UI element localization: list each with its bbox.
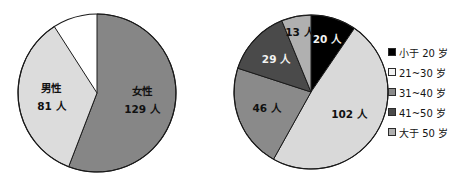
slice-label-value: 102 人 [331, 108, 368, 120]
gender-pie-panel: 女性129 人男性81 人 [0, 0, 200, 185]
slice-label-value: 46 人 [252, 102, 281, 114]
legend-item[interactable]: 大于 50 岁 [388, 122, 467, 142]
slice-label-value: 81 人 [37, 100, 66, 112]
age-legend: 小于 20 岁21~30 岁31~40 岁41~50 岁大于 50 岁 [388, 42, 467, 142]
slice-label-name: 女性 [132, 85, 153, 97]
legend-item-label: 小于 20 岁 [399, 45, 448, 60]
gender-pie-chart: 女性129 人男性81 人 [0, 0, 200, 185]
legend-item-label: 大于 50 岁 [399, 125, 448, 140]
legend-swatch-icon [388, 128, 396, 136]
age-pie-chart: 20 人102 人46 人29 人13 人 [233, 0, 393, 185]
legend-swatch-icon [388, 68, 396, 76]
legend-item-label: 31~40 岁 [399, 85, 446, 100]
legend-swatch-icon [388, 108, 396, 116]
slice-label-value: 20 人 [313, 33, 342, 45]
legend-swatch-icon [388, 88, 396, 96]
legend-item-label: 21~30 岁 [399, 65, 446, 80]
legend-swatch-icon [388, 48, 396, 56]
legend-item[interactable]: 21~30 岁 [388, 62, 467, 82]
pie-slices [234, 15, 388, 169]
legend-item[interactable]: 小于 20 岁 [388, 42, 467, 62]
pie-chart-figure: 女性129 人男性81 人 20 人102 人46 人29 人13 人 小于 2… [0, 0, 467, 185]
legend-item-label: 41~50 岁 [399, 105, 446, 120]
slice-label-value: 29 人 [262, 53, 291, 65]
slice-label-value: 129 人 [124, 103, 161, 115]
slice-label-name: 男性 [41, 82, 62, 94]
legend-item[interactable]: 41~50 岁 [388, 102, 467, 122]
legend-item[interactable]: 31~40 岁 [388, 82, 467, 102]
slice-label-value: 13 人 [285, 26, 314, 38]
